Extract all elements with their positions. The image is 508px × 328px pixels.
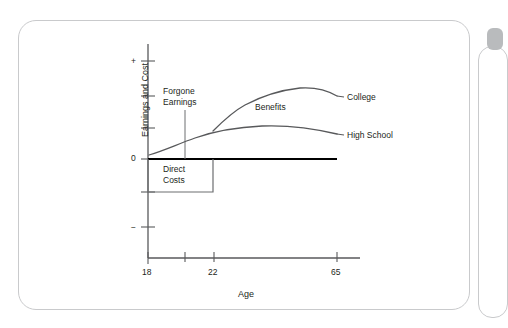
y-tick-label-zero: 0 <box>131 153 136 163</box>
y-tick-label-minus: − <box>131 222 136 232</box>
high-school-series-label: High School <box>347 130 393 140</box>
forgone-earnings-label-line1: Forgone <box>163 86 195 96</box>
x-axis-title: Age <box>238 289 254 299</box>
high-school-curve <box>149 126 337 155</box>
high-school-label-leader <box>337 134 344 135</box>
direct-costs-label-line2: Costs <box>163 175 185 185</box>
college-label-leader <box>337 96 344 97</box>
benefits-label: Benefits <box>255 102 286 112</box>
direct-costs-label-line1: Direct <box>163 164 185 174</box>
college-series-label: College <box>347 92 376 102</box>
forgone-earnings-label-line2: Earnings <box>163 97 197 107</box>
x-tick-label-18: 18 <box>142 267 151 277</box>
x-tick-label-22: 22 <box>208 267 217 277</box>
y-axis-title: Earnings and Cost <box>140 50 150 150</box>
y-tick-label-plus: + <box>131 56 136 66</box>
x-tick-label-65: 65 <box>331 267 340 277</box>
